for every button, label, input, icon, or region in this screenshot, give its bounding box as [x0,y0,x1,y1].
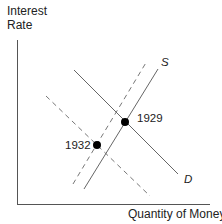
x-axis-label: Quantity of Money [128,207,222,221]
money-market-diagram [0,0,222,224]
demand-curve-label: D [184,173,192,186]
point-1929-label: 1929 [137,112,163,125]
supply-curve-label: S [161,56,169,69]
point-1929 [121,118,129,126]
point-1932 [93,141,101,149]
supply-curve-solid [84,69,158,189]
point-1932-label: 1932 [65,139,91,152]
